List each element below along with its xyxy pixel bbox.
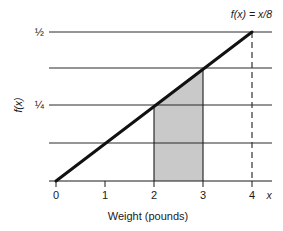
x-tick-label-0: 0 xyxy=(53,189,59,201)
x-axis-variable-label: x xyxy=(265,189,272,201)
y-tick-label-half: ½ xyxy=(35,26,44,38)
x-tick-label-2: 2 xyxy=(151,189,157,201)
curve-equation-label: f(x) = x/8 xyxy=(231,8,272,20)
chart-figure: ½ ¼ 0 1 2 3 4 x f(x) = x/8 Weight (pound… xyxy=(0,0,283,231)
x-tick-label-4: 4 xyxy=(249,189,255,201)
x-tick-label-3: 3 xyxy=(200,189,206,201)
shaded-area-region xyxy=(154,68,203,181)
x-axis-title: Weight (pounds) xyxy=(108,210,189,222)
y-tick-label-quarter: ¼ xyxy=(35,99,45,111)
function-plot: ½ ¼ 0 1 2 3 4 x f(x) = x/8 Weight (pound… xyxy=(0,0,283,231)
y-axis-title: f(x) xyxy=(12,97,24,112)
x-tick-label-1: 1 xyxy=(102,189,108,201)
